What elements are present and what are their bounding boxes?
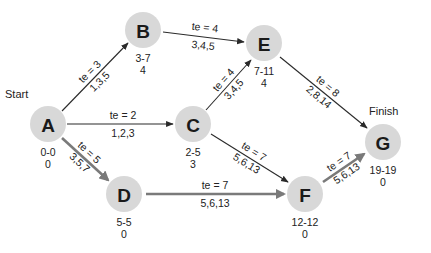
- edge-b-e: te = 4 3,4,5: [163, 20, 244, 53]
- node-g: G 19-19 0: [365, 124, 401, 188]
- edge-b-e-te: te = 4: [191, 20, 219, 35]
- node-c-label: C: [186, 115, 200, 136]
- node-d: D 5-5 0: [106, 176, 142, 240]
- edge-a-b: te = 3 1,3,5: [62, 43, 128, 111]
- edge-a-d: te = 5 3,5,7: [62, 138, 108, 180]
- edge-a-c-te: te = 2: [110, 109, 137, 121]
- edge-c-f: te = 7 5,6,13: [211, 134, 288, 182]
- node-c-times: 2-5: [185, 146, 200, 158]
- edge-a-c-estimates: 1,2,3: [111, 127, 135, 139]
- edge-e-g: te = 8 2,8,14: [280, 57, 367, 128]
- node-g-slack: 0: [380, 176, 386, 188]
- node-b-slack: 4: [140, 64, 146, 76]
- edge-d-f-estimates: 5,6,13: [200, 197, 229, 209]
- node-f: F 12-12 0: [287, 176, 323, 240]
- node-g-label: G: [376, 133, 391, 154]
- edge-c-e: te = 4 3,4,5: [206, 60, 251, 110]
- node-a-times: 0-0: [40, 146, 55, 158]
- edge-d-f: te = 7 5,6,13: [146, 179, 284, 209]
- finish-label: Finish: [369, 105, 398, 117]
- node-d-times: 5-5: [116, 216, 131, 228]
- edge-f-g: te = 7 5,6,13: [323, 148, 364, 186]
- node-e: E 7-11 4: [246, 25, 282, 89]
- node-f-times: 12-12: [292, 216, 319, 228]
- node-e-slack: 4: [261, 77, 267, 89]
- node-b: B 3-7 4: [125, 12, 161, 76]
- pert-network-diagram: Start Finish te = 3 1,3,5 te = 2 1,2,3 t…: [0, 0, 431, 253]
- node-g-times: 19-19: [370, 164, 397, 176]
- node-c: C 2-5 3: [175, 106, 211, 170]
- node-a-label: A: [41, 115, 55, 136]
- start-label: Start: [5, 88, 28, 100]
- node-e-times: 7-11: [254, 65, 274, 77]
- node-b-label: B: [136, 21, 150, 42]
- node-d-slack: 0: [121, 228, 127, 240]
- node-a-slack: 0: [45, 158, 51, 170]
- edge-d-f-te: te = 7: [202, 179, 229, 191]
- node-d-label: D: [117, 185, 131, 206]
- node-c-slack: 3: [190, 158, 196, 170]
- node-e-label: E: [258, 34, 271, 55]
- node-a: A 0-0 0: [30, 106, 66, 170]
- node-f-label: F: [299, 185, 311, 206]
- node-f-slack: 0: [302, 228, 308, 240]
- node-b-times: 3-7: [135, 52, 150, 64]
- edge-a-c: te = 2 1,2,3: [67, 109, 173, 139]
- edge-b-e-estimates: 3,4,5: [191, 38, 216, 52]
